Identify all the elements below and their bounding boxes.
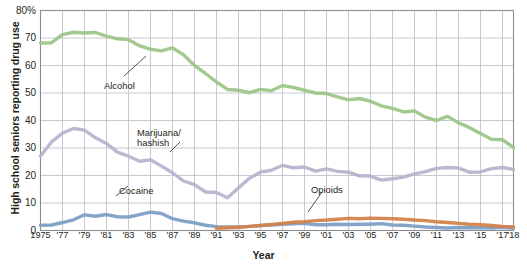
series-line-marijuana [41,128,514,197]
series-group [41,32,514,228]
drug-use-line-chart: High school seniors reporting drug use Y… [0,0,527,267]
series-line-cocaine [41,212,514,228]
series-label-marijuana-hashish: Marijuana/ hashish [137,128,181,149]
series-label-opioids: Opioids [311,185,343,195]
series-label-cocaine: Cocaine [119,186,153,196]
gridlines [41,11,514,231]
plot-area [0,0,527,267]
series-label-alcohol: Alcohol [104,81,135,91]
leader-line-alcohol [124,56,146,76]
